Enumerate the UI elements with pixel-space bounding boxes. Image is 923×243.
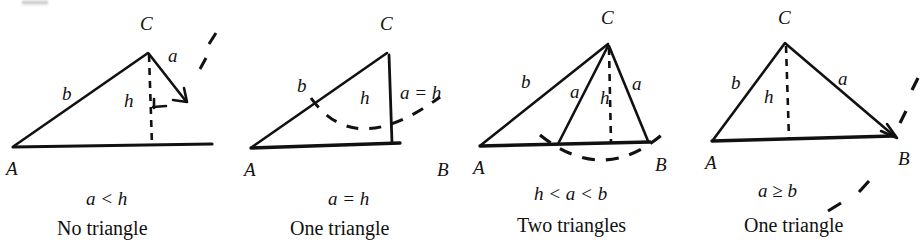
side-label-a: a (838, 68, 848, 89)
side-label-h: h (764, 86, 774, 107)
case-condition-text: a ≥ b (758, 180, 797, 201)
case-condition-text: a < h (86, 188, 127, 209)
side-label-a-first: a (570, 81, 580, 102)
vertex-label-a: A (4, 158, 18, 179)
baseline-ab (712, 136, 893, 141)
case-no-triangle-group: A C b h a a < h No triangle (4, 13, 216, 240)
side-b-line (713, 43, 785, 140)
side-label-h: h (124, 90, 134, 111)
swing-arc-dash-2 (200, 58, 206, 69)
swing-arc-dash-4 (912, 78, 918, 90)
case-result-text: One triangle (290, 217, 390, 240)
baseline-ray (13, 144, 212, 147)
swing-arc-dash-2 (859, 181, 869, 192)
side-label-b: b (521, 71, 531, 92)
case-one-triangle-right-group: A B C b h a = h a = h One triangle (242, 13, 449, 240)
ambiguous-case-figure-panel: A C b h a a < h No triangle A B C (0, 0, 923, 243)
vertex-label-a: A (242, 159, 256, 180)
swing-arc-dash-1 (209, 33, 216, 44)
vertex-label-b: B (898, 148, 910, 169)
vertex-label-c: C (778, 7, 791, 28)
case-condition-text: a = h (328, 188, 369, 209)
swing-arc-dash-3 (900, 111, 906, 123)
side-label-a-equals-h: a = h (400, 82, 441, 103)
altitude-h-dashed (786, 46, 789, 139)
side-label-b: b (731, 72, 741, 93)
side-a-equals-h-line (389, 55, 392, 143)
altitude-h-dashed (149, 55, 152, 145)
side-label-a-second: a (632, 73, 642, 94)
vertex-label-c: C (140, 13, 153, 34)
side-a-line (786, 44, 893, 135)
case-one-triangle-obtuse-group: A B C b h a a ≥ b One triangle (703, 7, 918, 237)
vertex-label-c: C (601, 7, 614, 28)
baseline-ab (480, 142, 650, 146)
case-condition-text: h < a < b (534, 183, 607, 204)
side-b-line (481, 44, 608, 145)
swing-arc-dash-1 (828, 203, 841, 211)
figure-canvas: A C b h a a < h No triangle A B C (0, 0, 923, 243)
side-a-swing-line (149, 54, 185, 100)
case-result-text: Two triangles (517, 214, 626, 237)
case-two-triangles-group: A B C b a h a h < a < b Two triangles (471, 7, 667, 237)
side-label-a: a (168, 45, 178, 66)
side-label-b: b (297, 75, 307, 96)
vertex-label-a: A (471, 157, 485, 178)
side-label-h: h (360, 87, 370, 108)
vertex-label-b: B (655, 154, 667, 175)
baseline-ab (251, 143, 400, 148)
vertex-label-b: B (437, 159, 449, 180)
vertex-label-a: A (703, 152, 717, 173)
side-a-second-line (609, 46, 648, 141)
case-result-text: One triangle (744, 214, 844, 237)
side-label-h: h (600, 87, 610, 108)
side-label-b: b (62, 83, 72, 104)
vertex-label-c: C (380, 13, 393, 34)
case-result-text: No triangle (57, 217, 148, 240)
